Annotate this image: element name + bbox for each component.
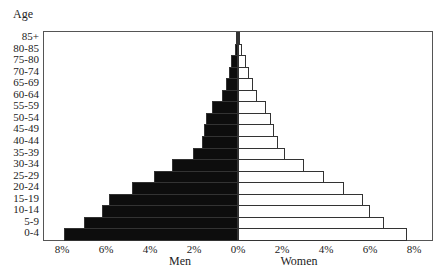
y-tick-label: 40-44 <box>13 135 39 147</box>
x-tick-label: 8% <box>407 243 422 255</box>
x-tick-label: 4% <box>319 243 334 255</box>
men-axis-label: Men <box>169 254 191 269</box>
y-tick-label: 85+ <box>22 31 39 43</box>
y-tick-label: 0-4 <box>24 227 39 239</box>
y-tick-label: 75-80 <box>13 54 39 66</box>
plot-area <box>43 31 433 241</box>
x-tick-label: 8% <box>55 243 70 255</box>
x-tick-label: 6% <box>363 243 378 255</box>
men-bar <box>64 228 238 241</box>
women-bar <box>238 228 407 241</box>
x-tick-label: 0% <box>231 243 246 255</box>
y-axis-title: Age <box>13 7 33 22</box>
y-tick-label: 30-34 <box>13 158 39 170</box>
women-axis-label: Women <box>280 254 317 269</box>
x-tick-label: 6% <box>99 243 114 255</box>
x-tick-label: 4% <box>143 243 158 255</box>
